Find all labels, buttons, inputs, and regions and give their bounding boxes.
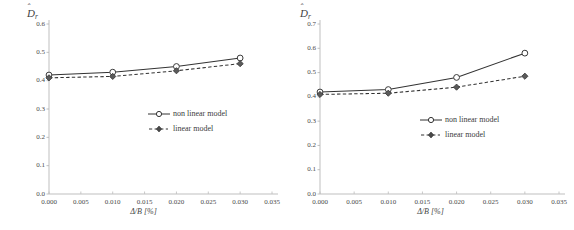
x-axis-title-symbol-right: Δ/B bbox=[417, 207, 429, 216]
x-axis-title-unit-right: [%] bbox=[431, 207, 444, 216]
legend-item-linear-left[interactable]: linear model bbox=[148, 121, 227, 136]
legend-label-linear-right: linear model bbox=[442, 130, 485, 139]
legend-left: non linear model linear model bbox=[148, 106, 227, 136]
legend-key-dashed-filled-diamond-icon bbox=[148, 124, 170, 134]
x-axis-title-left: Δ/B [%] bbox=[0, 207, 287, 216]
plot-area-left bbox=[0, 0, 287, 230]
legend-item-linear-right[interactable]: linear model bbox=[420, 127, 499, 142]
legend-item-nonlinear-left[interactable]: non linear model bbox=[148, 106, 227, 121]
figure-canvas: D̂r 0.00.10.20.30.40.50.6 0.0000.0050.01… bbox=[0, 0, 574, 230]
legend-label-nonlinear-right: non linear model bbox=[442, 115, 499, 124]
x-axis-title-symbol-left: Δ/B bbox=[130, 207, 142, 216]
legend-key-solid-open-circle-icon bbox=[420, 115, 442, 125]
legend-item-nonlinear-right[interactable]: non linear model bbox=[420, 112, 499, 127]
legend-key-solid-open-circle-icon bbox=[148, 109, 170, 119]
chart-panel-right: D̂r 0.00.10.20.30.40.50.60.7 0.0000.0050… bbox=[287, 0, 574, 230]
legend-label-linear-left: linear model bbox=[170, 124, 213, 133]
legend-right: non linear model linear model bbox=[420, 112, 499, 142]
chart-panel-left: D̂r 0.00.10.20.30.40.50.6 0.0000.0050.01… bbox=[0, 0, 287, 230]
x-axis-title-unit-left: [%] bbox=[144, 207, 157, 216]
x-axis-title-right: Δ/B [%] bbox=[287, 207, 574, 216]
legend-label-nonlinear-left: non linear model bbox=[170, 109, 227, 118]
legend-key-dashed-filled-diamond-icon bbox=[420, 130, 442, 140]
